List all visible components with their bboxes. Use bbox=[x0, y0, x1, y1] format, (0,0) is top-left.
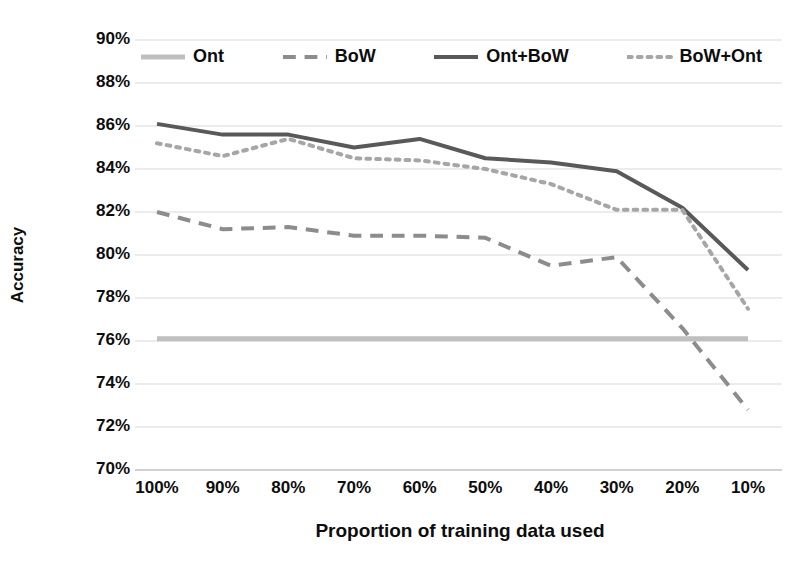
legend-swatch-icon bbox=[627, 50, 673, 64]
legend-label: Ont+BoW bbox=[486, 46, 569, 67]
plot-area bbox=[0, 0, 807, 567]
legend-entry-bow[interactable]: BoW bbox=[282, 46, 376, 67]
legend-entry-bow-ont[interactable]: BoW+Ont bbox=[627, 46, 763, 67]
chart-legend: OntBoWOnt+BoWBoW+Ont bbox=[140, 46, 780, 67]
legend-label: Ont bbox=[193, 46, 224, 67]
series-line-ont-bow bbox=[157, 124, 748, 270]
series-line-bow-ont bbox=[157, 139, 748, 309]
legend-swatch-icon bbox=[140, 50, 186, 64]
legend-swatch-icon bbox=[282, 50, 328, 64]
legend-entry-ont-bow[interactable]: Ont+BoW bbox=[433, 46, 569, 67]
legend-entry-ont[interactable]: Ont bbox=[140, 46, 224, 67]
legend-swatch-icon bbox=[433, 50, 479, 64]
legend-label: BoW+Ont bbox=[680, 46, 763, 67]
legend-label: BoW bbox=[335, 46, 376, 67]
chart-container: Accuracy Proportion of training data use… bbox=[0, 0, 807, 567]
series-line-bow bbox=[157, 212, 748, 410]
